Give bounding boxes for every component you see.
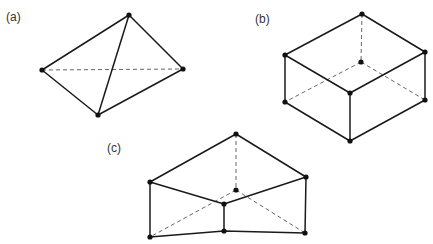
figures-svg [0,0,433,244]
vertex-dots [39,11,427,239]
figure-a-tetrahedron [42,15,183,115]
figure-c-wedge [150,134,306,237]
diagram-canvas: (a) (b) (c) [0,0,433,244]
figure-b-box [285,14,425,141]
